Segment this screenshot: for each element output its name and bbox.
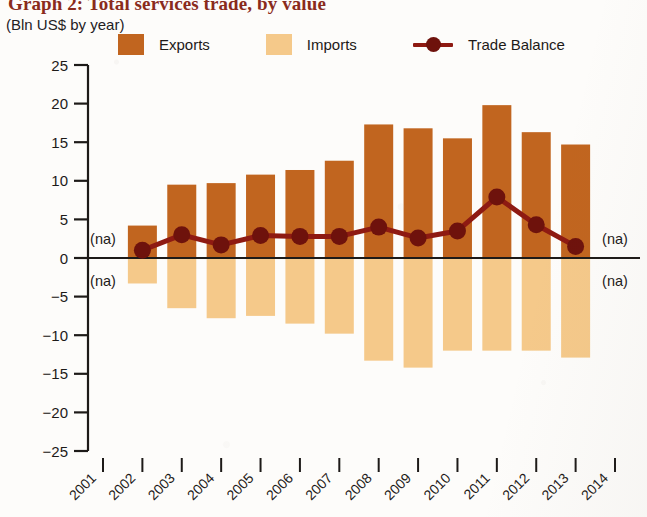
- bar-imports-2007: [325, 258, 354, 334]
- x-tick-label-2008: 2008: [341, 470, 374, 503]
- bars-imports-group: [128, 258, 590, 368]
- y-tick-label--5: −5: [51, 288, 68, 305]
- bar-exports-2011: [482, 105, 511, 258]
- trade-balance-line-group: [134, 189, 584, 259]
- bar-exports-2012: [522, 132, 551, 258]
- x-tick-label-2011: 2011: [460, 470, 493, 503]
- bars-exports-group: [128, 105, 590, 258]
- trade-balance-point-2011: [488, 189, 505, 206]
- trade-balance-point-2004: [213, 236, 230, 253]
- x-tick-label-2007: 2007: [302, 470, 335, 503]
- na-label-2001-above-zero: (na): [90, 231, 116, 247]
- trade-balance-point-2012: [528, 216, 545, 233]
- chart-svg: 2520151050−5−10−15−20−25 200120022003200…: [0, 0, 647, 517]
- bar-imports-2012: [522, 258, 551, 351]
- x-axis-group: 2001200220032004200520062007200820092010…: [66, 458, 615, 503]
- bar-imports-2008: [364, 258, 393, 361]
- x-tick-label-2012: 2012: [499, 470, 532, 503]
- x-tick-label-2014: 2014: [578, 470, 611, 503]
- x-tick-label-2004: 2004: [184, 470, 217, 503]
- y-tick-label-5: 5: [60, 211, 68, 228]
- y-tick-label--25: −25: [43, 443, 68, 460]
- y-tick-label--10: −10: [43, 327, 68, 344]
- na-label-2014-below-zero: (na): [602, 273, 628, 289]
- y-tick-label--20: −20: [43, 404, 68, 421]
- bar-imports-2010: [443, 258, 472, 351]
- trade-balance-point-2009: [410, 229, 427, 246]
- bar-exports-2008: [364, 124, 393, 258]
- bar-imports-2005: [246, 258, 275, 316]
- chart-plot-area: 2520151050−5−10−15−20−25 200120022003200…: [0, 0, 647, 517]
- x-tick-label-2009: 2009: [381, 470, 414, 503]
- trade-balance-point-2005: [252, 227, 269, 244]
- y-tick-label-20: 20: [51, 95, 68, 112]
- y-tick-label-0: 0: [60, 250, 68, 267]
- x-tick-label-2001: 2001: [66, 470, 99, 503]
- bar-imports-2006: [285, 258, 314, 324]
- y-tick-label--15: −15: [43, 365, 68, 382]
- trade-balance-point-2006: [291, 228, 308, 245]
- bar-imports-2009: [404, 258, 433, 368]
- y-tick-label-10: 10: [51, 172, 68, 189]
- bar-imports-2013: [561, 258, 590, 358]
- x-tick-label-2003: 2003: [145, 470, 178, 503]
- trade-balance-point-2007: [331, 228, 348, 245]
- trade-balance-point-2013: [567, 238, 584, 255]
- bar-imports-2003: [167, 258, 196, 308]
- x-tick-label-2002: 2002: [105, 470, 138, 503]
- na-label-2001-below-zero: (na): [90, 273, 116, 289]
- x-tick-label-2010: 2010: [420, 470, 453, 503]
- y-axis-group: 2520151050−5−10−15−20−25: [43, 57, 88, 460]
- x-tick-label-2006: 2006: [263, 470, 296, 503]
- trade-balance-point-2003: [173, 226, 190, 243]
- y-tick-label-15: 15: [51, 134, 68, 151]
- bar-exports-2003: [167, 185, 196, 258]
- x-tick-label-2005: 2005: [223, 470, 256, 503]
- bar-exports-2005: [246, 175, 275, 258]
- trade-balance-point-2002: [134, 242, 151, 259]
- na-label-2014-above-zero: (na): [602, 231, 628, 247]
- bar-imports-2002: [128, 258, 157, 283]
- bar-imports-2004: [207, 258, 236, 318]
- bar-imports-2011: [482, 258, 511, 351]
- bar-exports-2010: [443, 138, 472, 258]
- trade-balance-point-2008: [370, 219, 387, 236]
- y-tick-label-25: 25: [51, 57, 68, 74]
- trade-balance-point-2010: [449, 222, 466, 239]
- x-tick-label-2013: 2013: [538, 470, 571, 503]
